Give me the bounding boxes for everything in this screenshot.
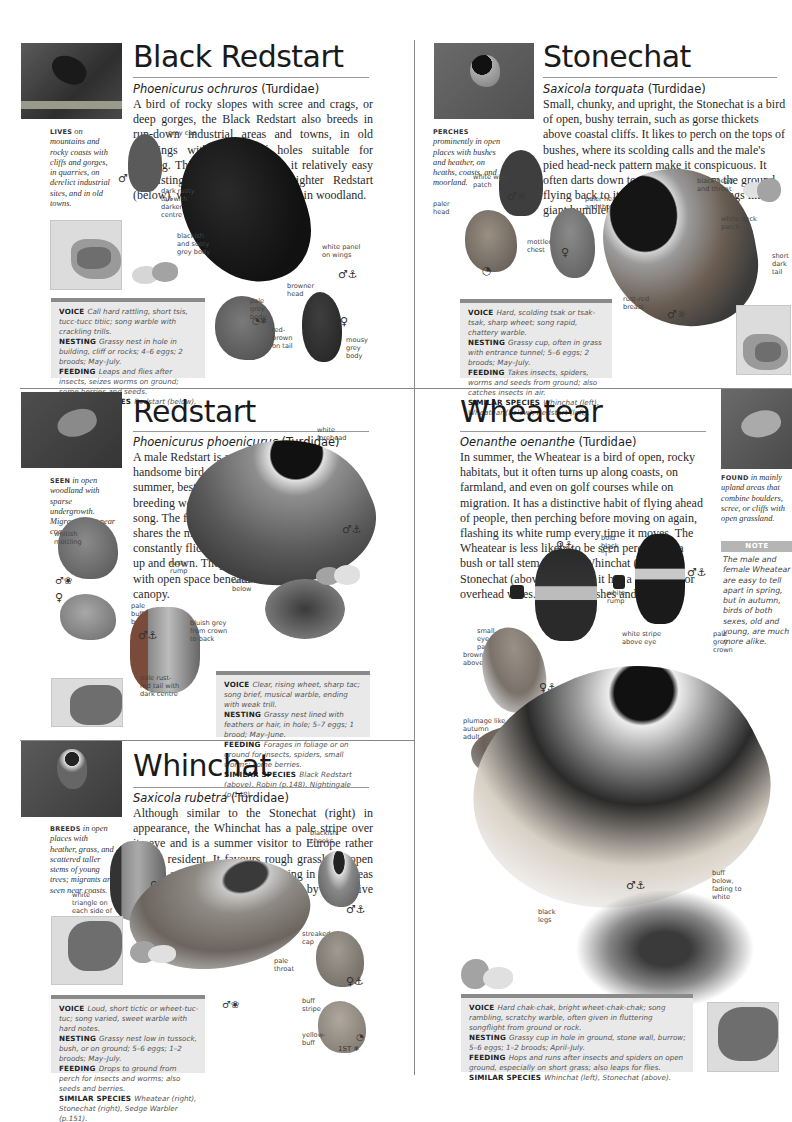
stonechat-photo xyxy=(434,43,534,119)
label-dark-rusty-tail: dark rusty tail with darker centre xyxy=(161,187,197,219)
label-pale-throat: pale throat xyxy=(274,957,296,973)
male-symbol: ♂ xyxy=(118,172,128,185)
male-autumn-symbol: ♂❀ xyxy=(55,575,72,586)
size-silhouette xyxy=(334,565,360,585)
stonechat-info-box: VOICEHard, scolding tsak or tsak-tsak, s… xyxy=(460,299,612,378)
label-white-rump: white rump xyxy=(607,589,629,605)
label-white-neck-patch: white neck patch xyxy=(721,215,761,231)
male-summer-symbol: ♂☼ xyxy=(667,308,687,321)
note-header: NOTE xyxy=(721,541,792,552)
female-symbol: ♀⚓ xyxy=(346,975,364,988)
wheatear-photo xyxy=(721,389,792,469)
black-redstart-photo xyxy=(21,43,122,119)
label-blackish-body: blackish and sooty grey body xyxy=(177,232,213,256)
label-orange-rufous: orange-rufous below xyxy=(232,569,262,593)
wheatear-range-map xyxy=(707,1002,779,1072)
male-symbol: ♂⚓ xyxy=(338,268,358,281)
label-paler-head: paler head xyxy=(433,200,455,216)
label-blackish-cheeks: blackish cheeks xyxy=(310,829,340,845)
first-winter-symbol: 1ST ❄ xyxy=(338,1045,359,1053)
stonechat-latin: Saxicola torquata (Turdidae) xyxy=(543,82,706,96)
label-buff-below: buff below, fading to white xyxy=(712,869,748,901)
label-black-head-throat: black head and throat xyxy=(697,177,737,193)
label-white-wing-patch: white wing patch xyxy=(473,173,509,189)
male-summer-symbol: ♂☼ xyxy=(507,190,527,203)
title-rule xyxy=(543,77,777,78)
size-silhouette xyxy=(148,945,176,963)
black-redstart-latin: Phoenicurus ochruros (Turdidae) xyxy=(133,82,319,96)
female-symbol: ♀ xyxy=(55,591,63,604)
redstart-range-map xyxy=(51,678,123,727)
redstart-female-illustration xyxy=(60,594,116,640)
black-redstart-flight-illustration xyxy=(128,134,162,192)
male-summer-symbol: ♂⚓ xyxy=(346,903,366,916)
redstart-perch-stump xyxy=(265,579,345,639)
title-rule xyxy=(133,787,369,788)
juvenile-winter-symbol: ◔❄ xyxy=(252,316,267,326)
redstart-title: Redstart xyxy=(133,395,256,429)
label-whitish-mottling: whitish mottling xyxy=(54,530,84,546)
female-symbol: ♀⚓ xyxy=(556,539,574,552)
black-redstart-habitat: LIVES on mountains and rocky coasts with… xyxy=(50,127,116,209)
wheatear-habitat: FOUND in mainly upland areas that combin… xyxy=(721,473,791,524)
wheatear-latin: Oenanthe oenanthe (Turdidae) xyxy=(460,435,637,449)
label-bluish-grey: bluish grey from crown to back xyxy=(190,619,230,643)
female-symbol: ♀ xyxy=(561,246,569,259)
label-bold-black-t: bold black "T" xyxy=(601,534,621,558)
size-silhouette xyxy=(152,262,178,282)
whinchat-habitat: BREEDS in open places with heather, gras… xyxy=(50,824,116,896)
label-white-stripe-above-eye: white stripe above eye xyxy=(622,630,668,646)
wheatear-title: Wheatear xyxy=(460,395,602,429)
whinchat-title: Whinchat xyxy=(133,749,271,783)
redstart-info-box: VOICEClear, rising wheet, sharp tac; son… xyxy=(216,671,370,737)
title-rule xyxy=(460,431,706,432)
stonechat-title: Stonechat xyxy=(543,40,691,74)
title-rule xyxy=(133,77,369,78)
size-silhouette xyxy=(483,967,513,989)
tail-t-pattern-icon xyxy=(613,575,625,589)
wheatear-male-flight-illustration xyxy=(635,534,685,624)
wheatear-info-box: VOICEHard chak-chak, bright wheet-chak-c… xyxy=(461,994,693,1072)
male-autumn-symbol: ♂❀ xyxy=(222,999,239,1010)
wheatear-female-flight-illustration xyxy=(535,549,597,641)
juvenile-symbol: ◔ xyxy=(482,264,492,277)
size-silhouette xyxy=(757,178,781,202)
entry-redstart: Redstart Phoenicurus phoenicurus (Turdid… xyxy=(0,389,414,740)
whinchat-range-map xyxy=(51,916,123,985)
whinchat-latin: Saxicola rubetra (Turdidae) xyxy=(133,791,289,805)
black-redstart-range-map xyxy=(50,220,122,290)
male-summer-symbol: ♂⚓ xyxy=(342,523,362,536)
entry-stonechat: Stonechat Saxicola torquata (Turdidae) S… xyxy=(415,0,792,388)
female-symbol: ♀ xyxy=(340,315,348,328)
whinchat-photo xyxy=(21,741,122,817)
label-mousy-grey-body: mousy grey body xyxy=(346,336,372,360)
tail-t-pattern-icon xyxy=(510,585,524,599)
stonechat-juvenile-illustration xyxy=(465,210,517,272)
label-short-dark-tail: short dark tail xyxy=(772,252,792,276)
black-redstart-title: Black Redstart xyxy=(133,40,344,74)
label-rust-red-breast: rust-red breast xyxy=(623,295,653,311)
label-yellow-buff: yellow-buff xyxy=(302,1031,324,1047)
redstart-photo xyxy=(21,392,122,468)
entry-whinchat: Whinchat Saxicola rubetra (Turdidae) Alt… xyxy=(0,741,414,1081)
label-pale-grey-crown: pale grey crown xyxy=(713,630,743,654)
label-rusty-rump: rusty rump xyxy=(170,559,194,575)
label-black-legs: black legs xyxy=(538,908,558,924)
label-red-brown-tail: red-brown on tail xyxy=(272,326,298,350)
male-summer-symbol: ♂⚓ xyxy=(687,566,707,579)
label-white-panel: white panel on wings xyxy=(322,243,362,259)
entry-black-redstart: Black Redstart Phoenicurus ochruros (Tur… xyxy=(0,0,414,388)
whinchat-info-box: VOICELoud, short tictic or wheet-tuc-tuc… xyxy=(51,995,205,1073)
label-pale-rust-red-tail: pale rust-red tail with dark centre xyxy=(140,674,180,698)
entry-wheatear: Wheatear Oenanthe oenanthe (Turdidae) In… xyxy=(415,389,792,1081)
juvenile-symbol: ◔ xyxy=(356,1032,364,1042)
stonechat-range-map xyxy=(736,305,791,375)
label-white-forehead: white forehead xyxy=(317,426,351,442)
wheatear-perch-thistle xyxy=(575,889,755,1009)
black-redstart-first-winter-illustration xyxy=(302,292,342,362)
male-summer-symbol: ♂⚓ xyxy=(138,629,158,642)
label-grey-cap: grey cap xyxy=(168,129,197,137)
black-redstart-info-box: VOICECall hard rattling, short tsis, tuc… xyxy=(51,298,205,378)
label-browner-head: browner head xyxy=(287,282,319,298)
